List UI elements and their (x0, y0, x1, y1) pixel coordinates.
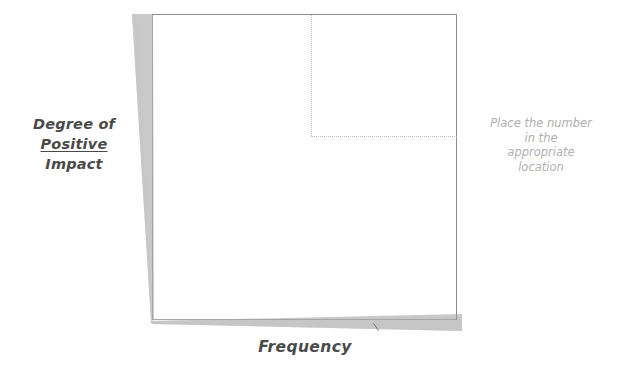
instruction-note-line-1: Place the number (466, 116, 616, 131)
instruction-note-line-3: appropriate (466, 145, 616, 160)
plot-area-frame[interactable] (152, 14, 457, 320)
y-axis-label: Degree of Positive Impact (18, 114, 130, 174)
x-axis-label: Frequency (205, 338, 405, 356)
y-axis-label-line-1: Degree of (18, 114, 130, 134)
quadrant-divider-vertical-line (311, 15, 312, 136)
diagram-canvas: Degree of Positive Impact Frequency Plac… (0, 0, 622, 385)
y-axis-label-line-2: Positive (18, 134, 130, 154)
quadrant-divider-horizontal-line (311, 136, 457, 137)
y-axis-label-line-3: Impact (18, 154, 130, 174)
instruction-note-line-2: in the (466, 131, 616, 146)
instruction-note: Place the number in the appropriate loca… (466, 116, 616, 174)
instruction-note-line-4: location (466, 160, 616, 175)
